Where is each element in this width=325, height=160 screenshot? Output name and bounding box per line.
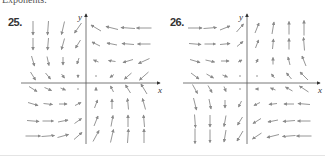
vector-arrow: [239, 101, 242, 107]
vector-arrow: [94, 116, 98, 126]
vector-arrow: [48, 21, 49, 35]
vector-arrow: [121, 28, 135, 29]
vector-arrow: [298, 104, 310, 105]
vector-arrow: [111, 130, 114, 143]
vector-arrow: [209, 99, 211, 109]
vector-arrow: [271, 88, 276, 90]
vector-arrow: [111, 86, 114, 92]
vector-arrow: [75, 103, 81, 106]
vector-arrow: [253, 119, 261, 124]
vector-arrow: [204, 28, 217, 29]
vector-arrow: [224, 130, 226, 142]
vector-arrow: [42, 136, 55, 137]
vector-arrow: [94, 60, 99, 62]
vector-arrow: [255, 23, 259, 33]
vector-arrow: [28, 103, 38, 106]
vector-arrow: [107, 43, 117, 45]
vector-arrow: [237, 131, 243, 141]
vector-arrow: [269, 104, 277, 105]
x-axis-label: x: [317, 85, 322, 95]
vector-arrow: [189, 44, 201, 45]
vector-arrow: [126, 85, 131, 93]
vector-arrow: [109, 61, 116, 62]
vector-arrow: [208, 86, 212, 93]
vector-arrow: [139, 59, 150, 64]
vector-field-plots: xy xy: [0, 0, 325, 160]
vector-arrow: [29, 87, 37, 92]
vector-arrow: [128, 129, 129, 143]
vector-arrow: [32, 56, 35, 66]
vector-arrow: [256, 59, 258, 63]
vector-arrow: [288, 57, 290, 65]
vector-arrow: [220, 26, 230, 30]
vector-field-25: xy: [21, 12, 162, 144]
vector-arrow: [61, 88, 66, 90]
vector-arrow: [62, 39, 65, 50]
vector-arrow: [224, 87, 226, 92]
vector-arrow: [143, 99, 146, 110]
vector-arrow: [144, 115, 145, 127]
vector-arrow: [76, 40, 81, 48]
vector-arrow: [62, 74, 65, 78]
vector-arrow: [92, 42, 100, 46]
vector-arrow: [286, 87, 293, 91]
vector-arrow: [193, 85, 198, 94]
y-axis-label: y: [238, 12, 243, 22]
vector-arrow: [75, 119, 82, 124]
vector-arrow: [287, 73, 292, 79]
vector-arrow: [93, 131, 99, 142]
vector-arrow: [141, 84, 147, 94]
vector-arrow: [272, 22, 274, 34]
vector-arrow: [238, 60, 242, 62]
vector-arrow: [91, 25, 101, 31]
x-axis-label: x: [157, 85, 162, 95]
vector-arrow: [238, 117, 243, 125]
vector-field-26: xy: [183, 12, 322, 144]
vector-arrow: [106, 27, 118, 30]
vector-arrow: [207, 74, 214, 78]
vector-arrow: [223, 75, 228, 77]
vector-arrow: [77, 58, 79, 64]
vector-arrow: [111, 116, 113, 127]
vector-arrow: [46, 73, 51, 79]
vector-arrow: [206, 60, 215, 62]
vector-arrow: [140, 72, 149, 80]
vector-arrow: [254, 103, 260, 106]
vector-arrow: [191, 73, 199, 79]
vector-arrow: [190, 60, 200, 63]
vector-arrow: [272, 74, 275, 78]
vector-arrow: [256, 40, 259, 48]
vector-arrow: [44, 104, 53, 105]
vector-arrow: [27, 121, 39, 122]
vector-arrow: [125, 73, 132, 79]
vector-arrow: [300, 72, 308, 80]
vector-arrow: [253, 133, 262, 139]
vector-arrow: [195, 115, 196, 128]
vector-arrow: [128, 99, 129, 110]
vector-arrow: [194, 98, 197, 110]
vector-arrow: [75, 23, 82, 33]
vector-arrow: [95, 100, 98, 108]
vector-arrow: [283, 121, 295, 122]
divider: [0, 155, 325, 156]
vector-arrow: [110, 75, 114, 78]
vector-arrow: [283, 136, 296, 137]
vector-arrow: [58, 135, 69, 138]
vector-arrow: [224, 116, 226, 127]
vector-arrow: [268, 120, 278, 122]
vector-arrow: [273, 39, 274, 49]
vector-arrow: [267, 135, 279, 138]
vector-arrow: [31, 72, 36, 80]
vector-arrow: [237, 42, 243, 47]
vector-arrow: [122, 44, 134, 45]
vector-arrow: [304, 38, 305, 51]
vector-arrow: [62, 22, 65, 35]
vector-arrow: [58, 120, 68, 122]
vector-arrow: [47, 57, 49, 66]
vector-arrow: [45, 88, 52, 91]
vector-arrow: [237, 24, 244, 32]
y-axis-label: y: [77, 12, 82, 22]
vector-arrow: [74, 133, 82, 140]
vector-arrow: [220, 44, 230, 45]
vector-arrow: [302, 56, 306, 66]
